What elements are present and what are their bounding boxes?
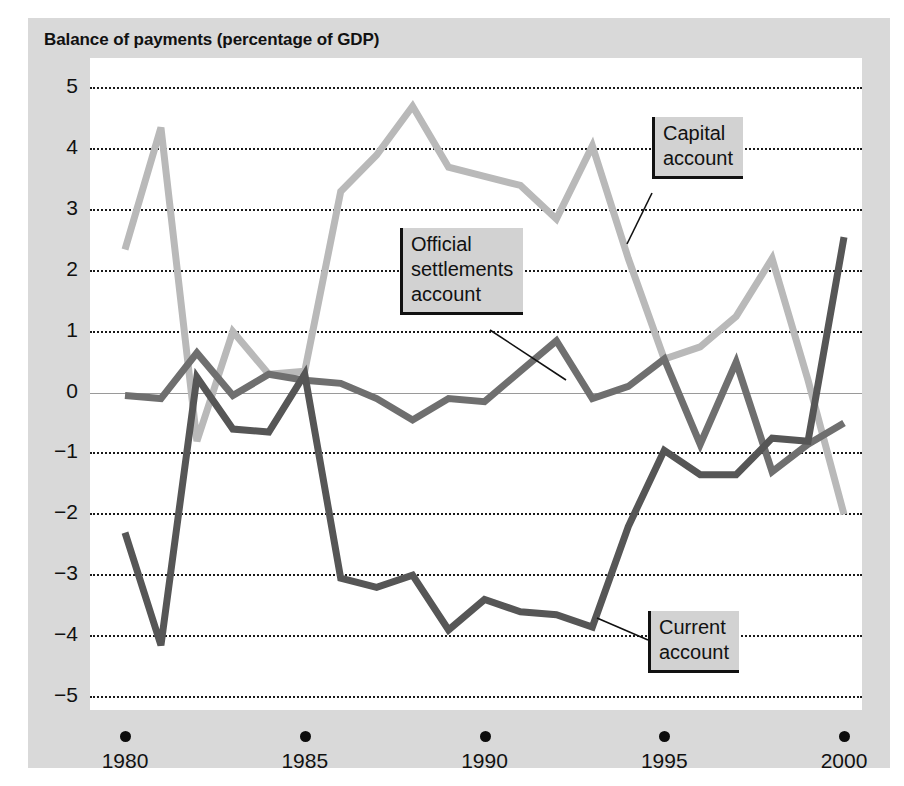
callout-current-account: Current account bbox=[648, 611, 739, 673]
callout-official-settlements-account: Official settlements account bbox=[400, 228, 523, 315]
figure-panel: Balance of payments (percentage of GDP) … bbox=[28, 18, 890, 768]
callout-capital-account: Capital account bbox=[652, 117, 743, 179]
leader-line-2 bbox=[597, 618, 648, 640]
leader-line-0 bbox=[627, 193, 652, 244]
leader-line-1 bbox=[490, 330, 566, 380]
callout-leader-lines bbox=[28, 18, 890, 768]
